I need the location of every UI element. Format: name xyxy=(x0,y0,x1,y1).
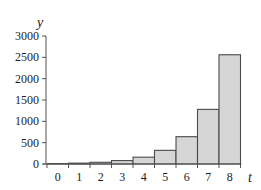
x-tick-label: 1 xyxy=(76,170,82,184)
y-tick-label: 1500 xyxy=(15,93,39,107)
x-axis: 012345678 xyxy=(43,164,242,184)
x-tick-label: 2 xyxy=(98,170,104,184)
x-tick-label: 3 xyxy=(119,170,125,184)
bar-4 xyxy=(133,157,155,164)
bars xyxy=(47,55,241,164)
y-tick-label: 1000 xyxy=(15,114,39,128)
x-tick-label: 5 xyxy=(162,170,168,184)
x-tick-label: 8 xyxy=(227,170,233,184)
x-tick-label: 0 xyxy=(55,170,61,184)
x-axis-title: t xyxy=(248,170,253,185)
y-tick-label: 0 xyxy=(33,157,39,171)
y-tick-label: 3000 xyxy=(15,29,39,43)
bar-8 xyxy=(219,55,241,164)
x-tick-label: 4 xyxy=(141,170,147,184)
bar-6 xyxy=(176,137,198,164)
y-axis-title: y xyxy=(35,15,44,30)
x-tick-label: 7 xyxy=(205,170,211,184)
y-tick-label: 500 xyxy=(21,136,39,150)
bar-3 xyxy=(112,161,134,164)
bar-7 xyxy=(198,109,220,164)
y-axis: 050010001500200025003000 xyxy=(15,29,46,171)
x-tick-label: 6 xyxy=(184,170,190,184)
bar-5 xyxy=(155,150,177,164)
y-tick-label: 2000 xyxy=(15,72,39,86)
bar-chart: 050010001500200025003000 012345678 y t xyxy=(0,0,261,190)
y-tick-label: 2500 xyxy=(15,50,39,64)
